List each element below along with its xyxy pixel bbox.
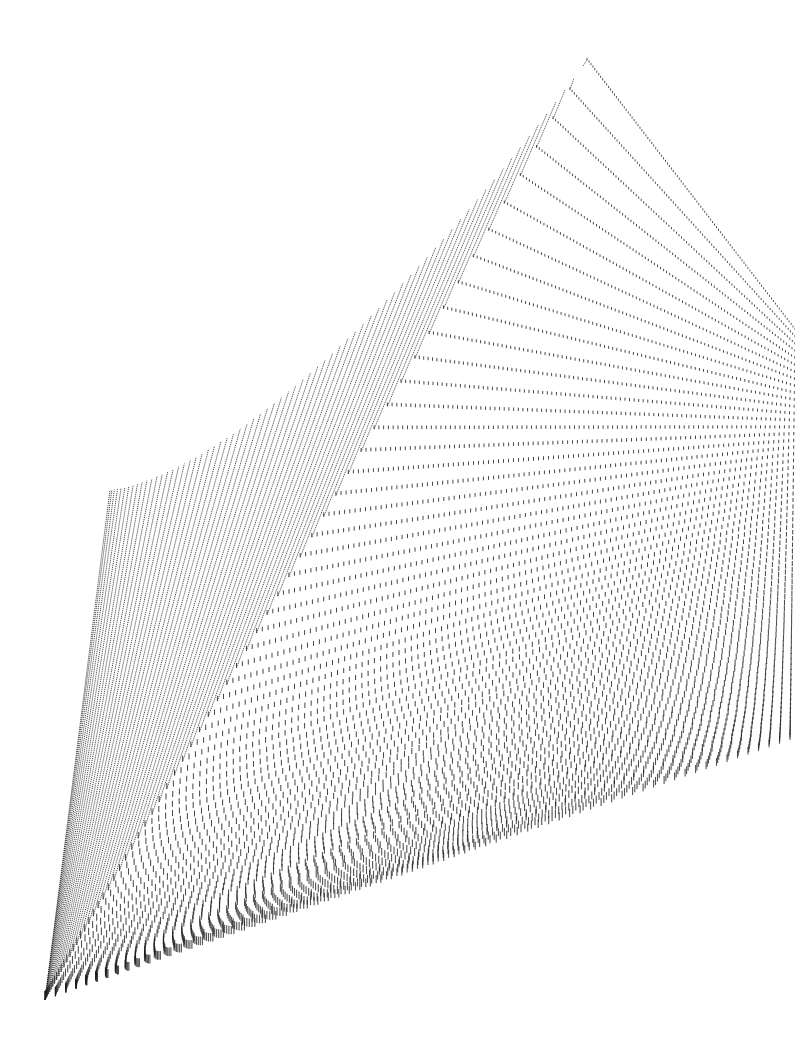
artwork-canvas [0, 0, 795, 1041]
figure-rows [45, 58, 795, 1000]
crowd-pyramid-artwork [0, 0, 795, 1041]
